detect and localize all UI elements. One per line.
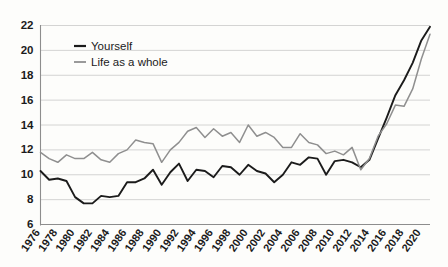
y-axis-tick-label: 16 [21,94,34,106]
x-axis-tick-label: 2020 [399,227,423,254]
chart-canvas: 6810121416182022197619781980198219841986… [0,0,448,267]
y-axis-tick-label: 20 [21,44,34,56]
y-axis-tick-label: 22 [21,19,34,31]
line-chart: 6810121416182022197619781980198219841986… [0,0,448,267]
y-axis-tick-label: 18 [21,69,34,81]
legend-label-yourself: Yourself [91,40,133,52]
y-axis-tick-label: 10 [21,168,34,180]
series-line-yourself [41,27,431,204]
y-axis-tick-label: 8 [27,193,34,205]
y-axis-tick-label: 14 [21,119,34,131]
y-axis-tick-label: 12 [21,143,34,155]
series-line-life-as-a-whole [41,34,431,170]
legend-label-life-as-a-whole: Life as a whole [91,56,168,68]
